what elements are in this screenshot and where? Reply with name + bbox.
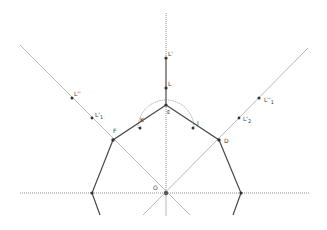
label-O: O bbox=[153, 185, 158, 191]
point-O bbox=[164, 191, 168, 195]
label-L-dprime-1-main: L'' bbox=[264, 96, 271, 103]
geometry-diagram bbox=[0, 0, 327, 230]
label-K: K bbox=[140, 117, 144, 123]
point-L-prime-2 bbox=[238, 117, 241, 120]
label-L-dprime: L'' bbox=[74, 91, 81, 97]
point-right-node bbox=[239, 191, 242, 194]
point-K bbox=[139, 127, 142, 130]
label-J: J bbox=[197, 120, 199, 126]
polygon-edges bbox=[92, 105, 241, 215]
label-F: F bbox=[113, 128, 116, 134]
point-D bbox=[217, 138, 220, 141]
label-L-dprime-1-sub: 1 bbox=[271, 99, 274, 105]
label-L-prime-1: L'1 bbox=[95, 112, 103, 120]
right-diagonal bbox=[143, 48, 308, 215]
label-E: E bbox=[167, 110, 170, 115]
label-L-prime: L' bbox=[168, 51, 173, 57]
point-E bbox=[164, 103, 167, 106]
point-left-node bbox=[90, 191, 93, 194]
label-L-prime-2-sub: 2 bbox=[248, 118, 251, 124]
label-L-prime-1-sub: 1 bbox=[100, 114, 103, 120]
label-D: D bbox=[224, 138, 229, 144]
label-L-dprime-1: L''1 bbox=[264, 97, 274, 105]
point-J bbox=[192, 127, 195, 130]
point-L-prime-1 bbox=[91, 117, 94, 120]
point-F bbox=[111, 138, 114, 141]
point-L-dprime-1 bbox=[258, 97, 261, 100]
left-diagonal bbox=[20, 45, 190, 215]
label-L: L bbox=[168, 81, 171, 87]
label-L-prime-2: L'2 bbox=[243, 116, 251, 124]
